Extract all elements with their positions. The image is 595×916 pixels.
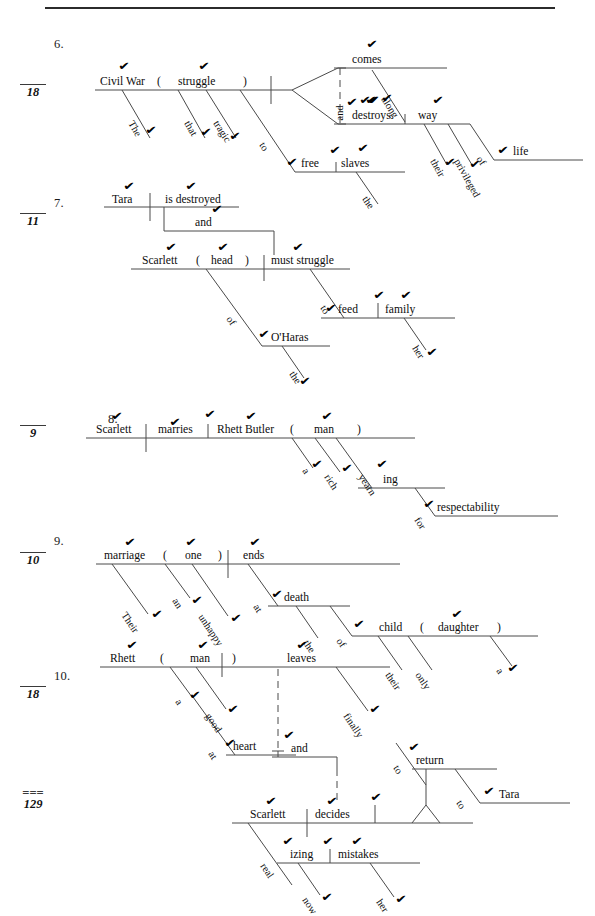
word: decides: [315, 809, 350, 821]
check-icon: ✔: [353, 618, 365, 629]
word: daughter: [438, 622, 479, 634]
check-icon: ✔: [423, 498, 435, 509]
diagram-7-lines: [0, 185, 595, 390]
check-icon: ✔: [111, 410, 123, 421]
check-icon: ✔: [369, 703, 381, 714]
check-icon: ✔: [357, 142, 369, 153]
check-icon: ✔: [329, 144, 341, 155]
word: Scarlett: [96, 424, 131, 436]
diagram-8-lines: [0, 400, 595, 515]
check-icon: ✔: [373, 289, 385, 300]
check-icon: ✔: [126, 639, 138, 650]
check-icon: ✔: [224, 737, 236, 748]
check-icon: ✔: [376, 458, 388, 469]
word: Scarlett: [250, 809, 285, 821]
word: comes: [352, 54, 382, 66]
check-icon: ✔: [271, 588, 283, 599]
check-icon: ✔: [124, 536, 136, 547]
word: way: [418, 110, 437, 122]
word: (: [157, 76, 161, 88]
check-icon: ✔: [400, 289, 412, 300]
diagram-8: Scarlett marries Rhett Butler ( man ) in…: [0, 400, 595, 510]
check-icon: ✔: [118, 60, 130, 71]
check-icon: ✔: [322, 835, 334, 846]
word: O'Haras: [271, 332, 309, 344]
word: and: [195, 217, 212, 229]
word: Rhett: [110, 653, 135, 665]
word: destroys: [352, 110, 391, 122]
word: and: [291, 743, 308, 755]
check-icon: ✔: [292, 241, 304, 252]
word: return: [416, 755, 444, 767]
check-icon: ✔: [497, 144, 509, 155]
check-icon: ✔: [321, 891, 333, 902]
diagram-6: Civil War ( struggle ) comes destroys wa…: [0, 28, 595, 188]
word: head: [211, 255, 233, 267]
word: ): [243, 76, 247, 88]
check-icon: ✔: [211, 203, 223, 214]
check-icon: ✔: [283, 729, 295, 740]
word: (: [420, 622, 424, 634]
word: one: [185, 550, 202, 562]
word: mistakes: [338, 849, 379, 861]
check-icon: ✔: [370, 791, 382, 802]
word: Civil War: [100, 76, 145, 88]
check-icon: ✔: [200, 126, 212, 137]
check-icon: ✔: [341, 462, 353, 473]
word: ): [357, 424, 361, 436]
check-icon: ✔: [444, 156, 456, 167]
check-icon: ✔: [359, 94, 371, 105]
check-icon: ✔: [381, 92, 393, 103]
check-icon: ✔: [265, 795, 277, 806]
word: heart: [233, 741, 256, 753]
diagram-9: marriage ( one ) ends death child ( daug…: [0, 522, 595, 652]
check-icon: ✔: [366, 38, 378, 49]
word: death: [284, 592, 309, 604]
word: (: [160, 653, 164, 665]
check-icon: ✔: [198, 60, 210, 71]
check-icon: ✔: [165, 241, 177, 252]
word: her: [374, 898, 390, 915]
check-icon: ✔: [123, 180, 135, 191]
word: respectability: [437, 502, 499, 514]
header-rule: [45, 7, 555, 9]
check-icon: ✔: [408, 741, 420, 752]
word: Rhett Butler: [217, 424, 274, 436]
check-icon: ✔: [326, 795, 338, 806]
word: man: [190, 653, 210, 665]
check-icon: ✔: [299, 375, 311, 386]
check-icon: ✔: [311, 458, 323, 469]
word: Tara: [499, 789, 519, 801]
check-icon: ✔: [346, 96, 358, 107]
check-icon: ✔: [258, 328, 270, 339]
diagram-10-lines: [0, 645, 595, 875]
word: ): [218, 550, 222, 562]
check-icon: ✔: [191, 594, 203, 605]
check-icon: ✔: [197, 639, 209, 650]
check-icon: ✔: [185, 180, 197, 191]
check-icon: ✔: [204, 408, 216, 419]
check-icon: ✔: [286, 156, 298, 167]
word: ing: [383, 474, 398, 486]
word: (: [163, 550, 167, 562]
check-icon: ✔: [395, 893, 407, 904]
check-icon: ✔: [169, 416, 181, 427]
check-icon: ✔: [230, 612, 242, 623]
check-icon: ✔: [185, 536, 197, 547]
word: marriage: [104, 550, 145, 562]
word: feed: [338, 304, 358, 316]
word: ): [497, 622, 501, 634]
check-icon: ✔: [145, 124, 157, 135]
check-icon: ✔: [217, 241, 229, 252]
word: ends: [243, 550, 264, 562]
word: (: [196, 255, 200, 267]
word: now: [300, 896, 319, 916]
word: ): [232, 653, 236, 665]
check-icon: ✔: [451, 608, 463, 619]
check-icon: ✔: [189, 689, 201, 700]
word: Scarlett: [142, 255, 177, 267]
word: man: [314, 424, 334, 436]
diagram-7: Tara is destroyed and Scarlett ( head ) …: [0, 185, 595, 385]
word: must struggle: [271, 255, 334, 267]
